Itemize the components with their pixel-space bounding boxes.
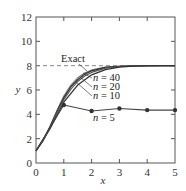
exact-pointer — [79, 64, 87, 71]
x-tick-label: 0 — [33, 166, 39, 178]
y-tick-label: 12 — [21, 11, 32, 23]
n10-eq: = — [98, 90, 109, 101]
n5-value: 5 — [109, 112, 114, 123]
x-tick-label: 3 — [117, 166, 123, 178]
x-tick-label: 5 — [172, 166, 178, 178]
series-n5-marker — [117, 106, 121, 110]
y-tick-label: 0 — [27, 157, 33, 169]
y-tick-label: 6 — [27, 84, 33, 96]
x-tick-label: 1 — [61, 166, 67, 178]
x-tick-label: 4 — [144, 166, 150, 178]
exact-label: Exact — [61, 53, 85, 64]
x-axis-label: x — [100, 174, 106, 186]
y-tick-label: 8 — [27, 60, 33, 72]
n5-label: n = 5 — [93, 112, 115, 123]
n10-value: 10 — [109, 90, 120, 101]
y-tick-label: 4 — [27, 108, 33, 120]
chart: 012345024681012 Exact n = 40 n = 20 n = … — [0, 0, 186, 191]
n5-eq: = — [98, 112, 109, 123]
series-n5-marker — [173, 108, 177, 112]
y-tick-label: 10 — [21, 35, 33, 47]
series-n5-marker — [145, 108, 149, 112]
y-tick-label: 2 — [27, 133, 33, 145]
n10-label: n = 10 — [93, 90, 120, 101]
x-tick-label: 2 — [89, 166, 95, 178]
n10-pointer — [76, 82, 92, 96]
series-n5-marker — [62, 103, 66, 107]
y-axis-label: y — [15, 83, 21, 95]
